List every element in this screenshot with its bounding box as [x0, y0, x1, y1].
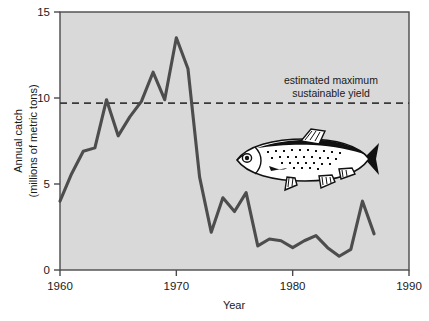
y-tick-label-5: 5 [44, 178, 50, 190]
x-axis-ticks: 1960197019801990 [47, 270, 422, 292]
x-tick-label-1970: 1970 [164, 280, 190, 292]
reference-line-label-line2: sustainable yield [292, 87, 370, 99]
annual-catch-line-chart: 051015 1960197019801990 estimated maximu… [0, 0, 429, 321]
x-tick-label-1980: 1980 [280, 280, 306, 292]
y-axis-ticks: 051015 [37, 6, 60, 276]
y-tick-label-0: 0 [44, 264, 50, 276]
x-axis-title: Year [223, 299, 246, 311]
y-axis-title-line2: (millions of metric tons) [27, 84, 39, 197]
chart-figure: 051015 1960197019801990 estimated maximu… [0, 0, 429, 321]
y-tick-label-15: 15 [37, 6, 50, 18]
y-axis-title-line1: Annual catch [12, 109, 24, 173]
reference-line-label-line1: estimated maximum [284, 74, 378, 86]
x-tick-label-1990: 1990 [396, 280, 422, 292]
y-tick-label-10: 10 [37, 92, 50, 104]
x-tick-label-1960: 1960 [47, 280, 73, 292]
